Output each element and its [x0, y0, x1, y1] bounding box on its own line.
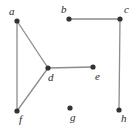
vertex-label-c: c: [124, 4, 129, 15]
edge-d-f: [17, 68, 48, 111]
edge-c-h: [119, 19, 120, 110]
edge-a-d: [17, 21, 48, 68]
graph-canvas: [0, 0, 137, 130]
graph-diagram: abcdefgh: [0, 0, 137, 130]
vertex-label-h: h: [121, 113, 127, 124]
vertex-a: [14, 18, 19, 23]
edge-d-e: [48, 67, 93, 68]
vertex-label-a: a: [9, 6, 15, 17]
vertex-label-g: g: [70, 112, 76, 123]
vertex-layer: [14, 16, 122, 113]
vertex-c: [117, 16, 122, 21]
vertex-d: [45, 65, 50, 70]
vertex-label-f: f: [19, 114, 22, 125]
edge-layer: [17, 19, 120, 111]
vertex-e: [90, 64, 95, 69]
vertex-g: [67, 105, 72, 110]
vertex-b: [66, 16, 71, 21]
vertex-label-b: b: [61, 4, 67, 15]
vertex-label-d: d: [48, 72, 54, 83]
vertex-label-e: e: [95, 71, 100, 82]
